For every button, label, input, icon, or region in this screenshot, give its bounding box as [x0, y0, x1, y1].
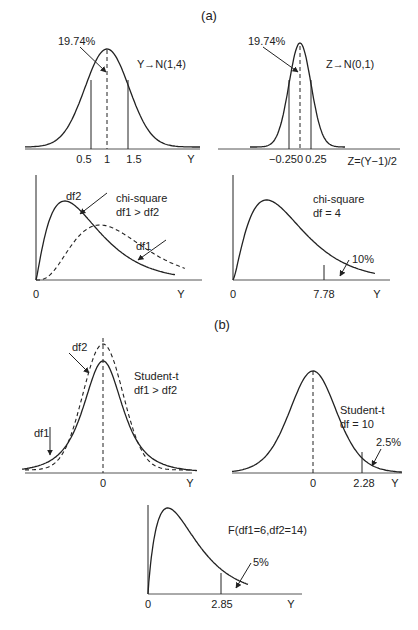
panel-t-df10: 2.5% Student-t df = 10 0 2.28 Y: [232, 371, 402, 489]
tail-annotation: 5%: [253, 556, 269, 568]
origin-label: 0: [230, 288, 236, 300]
tick-label: 2.85: [211, 598, 232, 610]
f-curve: [148, 508, 248, 594]
distribution-subtitle: df1 > df2: [116, 206, 159, 218]
distribution-title: Z→N(0,1): [326, 58, 374, 70]
curve-label-df1: df1: [136, 240, 151, 252]
distribution-title: Y→N(1,4): [137, 58, 186, 70]
origin-label: 0: [33, 288, 39, 300]
axis-label: Y: [373, 288, 381, 300]
tick-label: 0: [297, 153, 303, 165]
tick-label: 2.28: [353, 477, 374, 489]
distribution-subtitle: df = 4: [313, 207, 341, 219]
annotation-label: 19.74%: [58, 35, 96, 47]
distribution-subtitle: df1 > df2: [134, 384, 177, 396]
axis-label: Y: [186, 477, 194, 489]
tail-annotation: 10%: [352, 253, 374, 265]
distribution-title: Student-t: [134, 370, 179, 382]
axis-label: Y: [177, 288, 185, 300]
panel-normal-y: 19.74% Y→N(1,4) 0.5 1 1.5 Y: [25, 35, 200, 165]
tick-label: 0.5: [76, 153, 91, 165]
curve-label-df2: df2: [72, 341, 87, 353]
panel-normal-z: 19.74% Z→N(0,1) −0.25 0 0.25 Z=(Y−1)/2: [218, 35, 400, 167]
distribution-title: chi-square: [313, 193, 364, 205]
tail-annotation: 2.5%: [376, 436, 401, 448]
distribution-title: F(df1=6,df2=14): [228, 524, 307, 536]
tail-arrow: [236, 563, 251, 588]
chisq-curve: [233, 200, 375, 280]
tick-label: 0: [310, 477, 316, 489]
panel-f-dist: 5% F(df1=6,df2=14) 0 2.85 Y: [145, 505, 307, 610]
section-label-b: (b): [214, 317, 230, 332]
axis-label: Z=(Y−1)/2: [347, 155, 397, 167]
distribution-title: Student-t: [340, 404, 385, 416]
section-label-a: (a): [201, 8, 217, 23]
curve-label-df2: df2: [66, 190, 81, 202]
df2-arrow: [69, 353, 89, 373]
tail-arrow: [372, 449, 381, 466]
tick-label: 1.5: [126, 153, 141, 165]
df2-arrow: [80, 193, 107, 214]
panel-chisq-df4: 10% chi-square df = 4 0 7.78 Y: [230, 175, 390, 300]
axis-label: Y: [391, 477, 399, 489]
annotation-label: 19.74%: [248, 35, 286, 47]
tick-label: 0.25: [305, 153, 326, 165]
distribution-title: chi-square: [116, 192, 167, 204]
axis-label: Y: [287, 598, 295, 610]
distribution-subtitle: df = 10: [340, 418, 374, 430]
tick-label: 7.78: [313, 288, 334, 300]
origin-label: 0: [145, 598, 151, 610]
panel-t-compare: df2 df1 Student-t df1 > df2 0 Y: [22, 338, 197, 489]
distributions-diagram: (a) (b) 19.74% Y→N(1,4) 0.5 1 1.5 Y 19.7…: [0, 0, 418, 630]
panel-chisq-compare: df2 df1 chi-square df1 > df2 0 Y: [33, 175, 202, 300]
tick-label: 1: [104, 153, 110, 165]
tick-label: −0.25: [269, 153, 297, 165]
annotation-arrow: [263, 47, 298, 72]
tick-label: 0: [100, 477, 106, 489]
axis-label: Y: [187, 153, 195, 165]
curve-label-df1: df1: [34, 427, 49, 439]
